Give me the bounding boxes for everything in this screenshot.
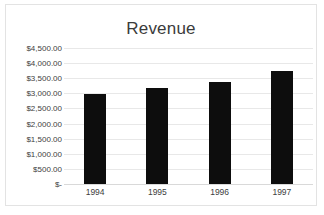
gridline (64, 184, 313, 185)
y-axis-tick-label: $500.00 (8, 164, 62, 173)
y-axis: $4,500.00$4,000.00$3,500.00$3,000.00$2,5… (8, 48, 62, 184)
plot-area (64, 48, 313, 184)
y-axis-tick-label: $3,000.00 (8, 89, 62, 98)
bar[interactable] (271, 71, 293, 184)
y-axis-tick-label: $2,500.00 (8, 104, 62, 113)
y-axis-tick-label: $1,000.00 (8, 149, 62, 158)
bar[interactable] (209, 82, 231, 184)
bar[interactable] (84, 94, 106, 184)
x-axis-tick-label: 1996 (193, 187, 247, 197)
bar[interactable] (146, 88, 168, 184)
y-axis-tick-label: $3,500.00 (8, 74, 62, 83)
x-axis-tick-label: 1994 (68, 187, 122, 197)
chart-container: Revenue $4,500.00$4,000.00$3,500.00$3,00… (5, 4, 317, 206)
x-axis: 1994199519961997 (64, 187, 313, 203)
y-axis-tick-label: $4,000.00 (8, 59, 62, 68)
y-axis-tick-label: $1,500.00 (8, 134, 62, 143)
bar-series (64, 48, 313, 184)
chart-title: Revenue (6, 19, 316, 39)
y-axis-tick-label: $- (8, 180, 62, 189)
x-axis-tick-label: 1997 (255, 187, 309, 197)
y-axis-tick-label: $4,500.00 (8, 44, 62, 53)
y-axis-tick-label: $2,000.00 (8, 119, 62, 128)
x-axis-tick-label: 1995 (130, 187, 184, 197)
